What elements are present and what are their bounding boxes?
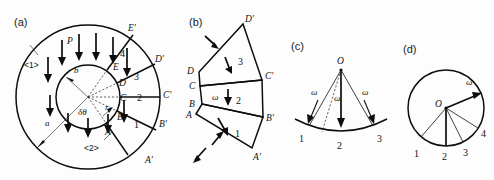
region-1-label: <1> [24,60,39,70]
dashed-radial-B [88,97,117,111]
panel-c-point-3: 3 [377,133,382,144]
panel-c-omega-2: ω [334,93,340,103]
panel-d-point-2: 2 [442,151,447,162]
panel-c-point-1: 1 [299,133,304,144]
point-C-prime-label: C' [163,90,172,100]
figure-canvas: (a) <1> a b [0,0,494,180]
radius-b-arrowhead [66,77,74,82]
panel-d-point-1: 1 [414,148,419,159]
radius-a-label: a [45,118,50,128]
delta-theta-label: δθ [78,107,87,117]
panel-d-omega-label: ω [466,77,472,87]
point-E-label: E [112,62,119,72]
panel-c-omega-1: ω [311,87,317,97]
sector-2-label: 2 [137,92,142,103]
radius-b-line [66,77,88,97]
panel-b-point-D-prime: D' [244,14,255,24]
figure-root: (a) <1> a b [0,0,494,180]
panel-b-point-C: C [189,81,196,91]
segment-external-arrows [193,36,224,163]
panel-b-omega-label: ω [212,92,218,102]
radius-a-arrowhead [37,140,45,148]
point-A-prime-label: A' [144,155,154,165]
point-C-label: C [120,93,127,103]
segment-3-shape [199,24,262,86]
panel-c: (c) O ω ω ω 1 2 [291,40,387,151]
point-B-label: B [117,112,123,122]
panel-d-omega-arrow [446,95,477,108]
panel-d-omega-arrowhead [472,92,482,99]
sector-1-label: 1 [134,119,139,130]
panel-d-label: (d) [403,43,416,55]
panel-b-point-C-prime: C' [265,71,274,81]
panel-c-line-3 [341,70,373,126]
panel-b-point-B: B [189,99,195,109]
sector-4-label: 4 [120,48,125,59]
point-D-label: D [118,78,126,88]
panel-c-omega-3: ω [362,87,368,97]
point-D-prime-label: D' [154,54,165,64]
panel-b-point-D: D [186,66,194,76]
panel-b: (b) [185,14,275,163]
panel-c-center-label: O [337,56,344,66]
panel-b-segment-2: 2 [236,95,241,106]
panel-c-point-2: 2 [337,140,342,151]
pressure-label: P [66,36,73,46]
dashed-radial-E [88,70,107,97]
region-2-label: <2> [84,143,99,153]
point-A-label: A [104,127,111,137]
panel-d-center-label: O [435,99,442,109]
point-B-prime-label: B' [159,119,168,129]
panel-c-label: (c) [291,40,304,52]
panel-b-label: (b) [189,16,202,28]
panel-b-point-B-prime: B' [266,113,275,123]
radius-r-label: r [105,102,109,112]
panel-b-segment-3: 3 [238,56,243,67]
point-E-prime-label: E' [127,23,137,33]
panel-a-label: (a) [14,16,27,28]
radius-b-label: b [74,65,79,75]
panel-b-point-A: A [185,110,192,120]
panel-d-line-1 [421,108,446,137]
panel-b-point-A-prime: A' [252,152,262,162]
segment-internal-arrows [218,57,232,136]
panel-d-point-3: 3 [463,147,468,158]
sector-3-label: 3 [134,71,139,82]
panel-d-point-4: 4 [481,128,486,139]
dashed-radial-D [88,83,117,97]
panel-a: (a) <1> a b [14,16,172,169]
panel-d: (d) O ω 1 2 3 4 [403,43,486,162]
dashed-radial-A [88,97,106,123]
panel-b-segment-1: 1 [235,128,240,139]
